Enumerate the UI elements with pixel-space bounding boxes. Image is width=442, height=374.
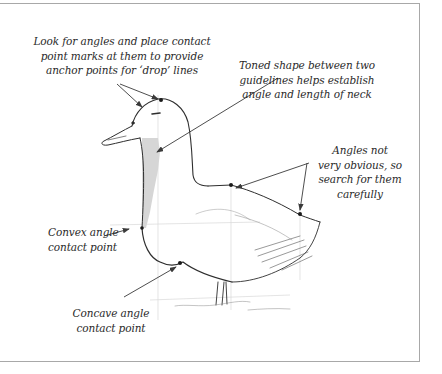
arrow-to-tail-angle bbox=[300, 163, 307, 210]
annotation-angles-not-obvious: Angles not very obvious, so search for t… bbox=[310, 143, 410, 201]
annotation-line: Toned shape between two bbox=[232, 58, 382, 73]
annotation-line: Angles not bbox=[310, 143, 410, 158]
annotation-convex-angle: Convex angle contact point bbox=[48, 225, 138, 254]
arrow-to-concave-point bbox=[124, 267, 176, 297]
annotation-line: guidelines helps establish bbox=[232, 73, 382, 88]
annotation-look-for-angles: Look for angles and place contact point … bbox=[22, 34, 222, 78]
annotation-line: angle and length of neck bbox=[232, 87, 382, 102]
annotation-line: anchor points for ‘drop’ lines bbox=[22, 63, 222, 78]
annotation-line: search for them bbox=[310, 172, 410, 187]
arrow-to-back-angle bbox=[236, 163, 309, 188]
annotation-line: Concave angle bbox=[56, 306, 166, 321]
annotation-line: contact point bbox=[56, 321, 166, 336]
annotation-line: Convex angle bbox=[48, 225, 138, 240]
annotation-line: contact point bbox=[48, 240, 138, 255]
annotation-concave-angle: Concave angle contact point bbox=[56, 306, 166, 335]
annotation-line: carefully bbox=[310, 187, 410, 202]
annotation-line: point marks at them to provide bbox=[22, 49, 222, 64]
annotation-line: Look for angles and place contact bbox=[22, 34, 222, 49]
annotation-toned-shape: Toned shape between two guidelines helps… bbox=[232, 58, 382, 102]
annotation-line: very obvious, so bbox=[310, 158, 410, 173]
